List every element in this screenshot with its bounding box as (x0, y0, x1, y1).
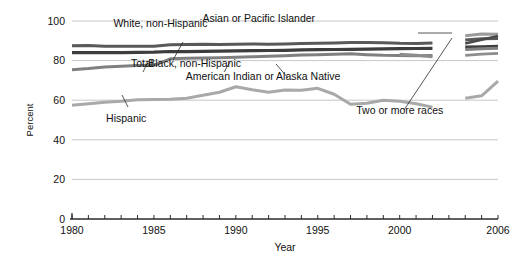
x-tick-label-1990: 1990 (224, 224, 248, 236)
y-tick-label-60: 60 (53, 94, 65, 106)
y-tick-label-40: 40 (53, 134, 65, 146)
series-label-4: American Indian or Alaska Native (186, 70, 341, 82)
y-tick-label-20: 20 (53, 173, 65, 185)
series-label-1: White, non-Hispanic (113, 17, 207, 29)
y-axis-title: Percent (24, 103, 35, 136)
y-tick-label-100: 100 (47, 15, 65, 27)
series-line-2 (72, 48, 432, 52)
x-axis-ticks: 198019851990199520002006 (60, 215, 510, 236)
series-line-3 (72, 54, 432, 70)
series-annotations: Asian or Pacific IslanderWhite, non-Hisp… (106, 12, 443, 124)
series-label-5: Two or more races (356, 104, 443, 116)
x-tick-label-2000: 2000 (388, 224, 412, 236)
series-line-4 (465, 53, 498, 55)
series-line-3 (465, 48, 498, 49)
line-chart: 020406080100 198019851990199520002006 As… (0, 0, 526, 259)
series-label-3: Black, non-Hispanic (148, 57, 241, 69)
y-axis-ticks: 020406080100 (47, 15, 65, 225)
series-line-6 (465, 81, 498, 98)
series-line-0 (465, 34, 498, 36)
series-label-6: Hispanic (106, 112, 146, 124)
x-tick-label-2006: 2006 (486, 224, 510, 236)
y-tick-label-80: 80 (53, 54, 65, 66)
x-axis-title: Year (274, 241, 296, 253)
x-tick-label-1995: 1995 (306, 224, 330, 236)
y-tick-label-0: 0 (59, 213, 65, 225)
series-label-0: Asian or Pacific Islander (202, 12, 315, 24)
x-tick-label-1980: 1980 (60, 224, 84, 236)
chart-container: 020406080100 198019851990199520002006 As… (0, 0, 526, 259)
x-tick-label-1985: 1985 (142, 224, 166, 236)
series-line-1 (72, 42, 432, 46)
